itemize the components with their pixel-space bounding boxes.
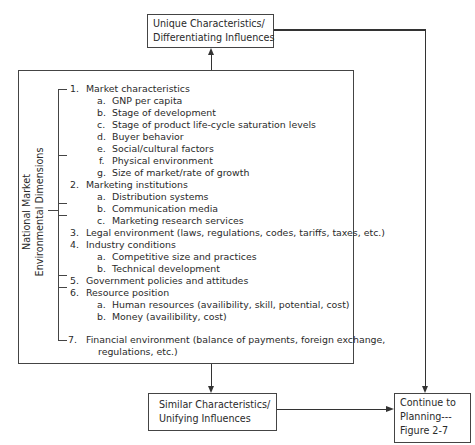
dimension-6a-label: Human resources (availibility, skill, po… — [112, 299, 350, 311]
dimension-1a-label: GNP per capita — [112, 95, 182, 107]
side-label-line1: National Market — [20, 148, 33, 277]
dimension-6b-label: Money (availibility, cost) — [112, 311, 227, 323]
dimension-6-label: Resource position — [86, 287, 169, 299]
connector-top-horizontal — [274, 29, 426, 31]
bracket-midpoint-tick — [48, 210, 59, 211]
dimension-1c-letter: c. — [97, 119, 105, 131]
dimension-1b-letter: b. — [97, 107, 106, 119]
connector-main-to-top — [211, 54, 212, 70]
arrow-down-icon — [208, 386, 214, 393]
bracket-tick-7 — [58, 340, 67, 341]
dimension-4b-letter: b. — [97, 263, 106, 275]
dimension-2-label: Marketing institutions — [86, 179, 188, 191]
dimension-6-number: 6. — [70, 287, 79, 299]
dimension-1d-letter: d. — [97, 131, 106, 143]
dimension-4-number: 4. — [70, 239, 79, 251]
dimension-2c-label: Marketing research services — [112, 215, 244, 227]
continue-line1: Continue to — [400, 396, 456, 410]
unique-characteristics-line1: Unique Characteristics/ — [153, 17, 265, 31]
bracket-tick-4 — [58, 215, 67, 216]
dimension-1e-letter: e. — [97, 143, 106, 155]
dimension-1f-letter: f. — [99, 155, 105, 167]
dimension-7-continuation: regulations, etc.) — [98, 346, 178, 358]
dimension-4a-label: Competitive size and practices — [112, 251, 257, 263]
similar-characteristics-line2: Unifying Influences — [159, 412, 251, 426]
continue-line3: Figure 2-7 — [400, 424, 448, 438]
dimension-1e-label: Social/cultural factors — [112, 143, 214, 155]
dimension-6a-letter: a. — [97, 299, 106, 311]
dimension-2a-letter: a. — [97, 191, 106, 203]
connector-bottom-to-continue — [277, 409, 387, 411]
dimension-6b-letter: b. — [97, 311, 106, 323]
arrow-into-continue-icon — [422, 386, 428, 393]
dimension-7-label: Financial environment (balance of paymen… — [86, 334, 385, 346]
bracket-tick-6 — [58, 287, 67, 288]
dimension-3-label: Legal environment (laws, regulations, co… — [86, 227, 385, 239]
unique-characteristics-line2: Differentiating Influences — [153, 31, 274, 45]
dimension-2c-letter: c. — [97, 215, 105, 227]
bracket-tick-5 — [58, 275, 67, 276]
dimension-2b-letter: b. — [97, 203, 106, 215]
dimension-1-label: Market characteristics — [86, 83, 190, 95]
connector-right-vertical — [425, 29, 427, 387]
arrow-right-icon — [386, 406, 394, 412]
dimension-4-label: Industry conditions — [86, 239, 176, 251]
continue-line2: Planning--- — [400, 410, 452, 424]
dimension-1c-label: Stage of product life-cycle saturation l… — [112, 119, 316, 131]
dimension-2-number: 2. — [70, 179, 79, 191]
dimension-4b-label: Technical development — [112, 263, 220, 275]
bracket-tick-3 — [58, 203, 67, 204]
bracket-tick-1 — [58, 89, 67, 90]
dimension-4a-letter: a. — [97, 251, 106, 263]
connector-main-to-bottom — [211, 364, 212, 388]
dimension-1d-label: Buyer behavior — [112, 131, 184, 143]
dimension-1a-letter: a. — [97, 95, 106, 107]
similar-characteristics-line1: Similar Characteristics/ — [159, 398, 270, 412]
dimension-5-label: Government policies and attitudes — [86, 275, 248, 287]
dimension-1g-label: Size of market/rate of growth — [112, 167, 249, 179]
dimension-3-number: 3. — [70, 227, 79, 239]
bracket-tick-2 — [58, 155, 67, 156]
dimension-1b-label: Stage of development — [112, 107, 216, 119]
dimension-5-number: 5. — [70, 275, 79, 287]
side-label-line2: Environmental Dimensions — [33, 148, 46, 277]
dimension-2a-label: Distribution systems — [112, 191, 208, 203]
dimension-7-number: 7. — [68, 334, 77, 346]
dimension-2b-label: Communication media — [112, 203, 218, 215]
dimension-1g-letter: g. — [97, 167, 106, 179]
arrow-up-icon — [208, 48, 214, 55]
side-label: National Market Environmental Dimensions — [20, 148, 46, 277]
dimension-1f-label: Physical environment — [112, 155, 213, 167]
dimension-1-number: 1. — [70, 83, 79, 95]
